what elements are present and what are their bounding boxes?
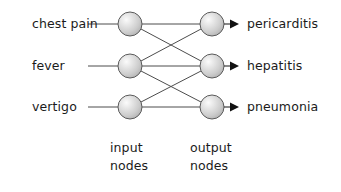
input-label-fever: fever	[32, 58, 66, 73]
output-arrows-group	[224, 20, 239, 112]
output-nodes-group	[200, 12, 224, 119]
input-label-vertigo: vertigo	[32, 99, 77, 114]
output-node-pneumonia[interactable]	[200, 95, 224, 119]
input-node-vertigo[interactable]	[118, 95, 142, 119]
input-caption-line1: input	[110, 140, 143, 155]
output-node-pericarditis[interactable]	[200, 12, 224, 36]
output-labels-group: pericarditis hepatitis pneumonia	[247, 16, 318, 114]
layer-captions-group: input nodes output nodes	[110, 140, 232, 173]
output-label-pneumonia: pneumonia	[247, 99, 318, 114]
output-node-hepatitis[interactable]	[200, 54, 224, 78]
input-node-fever[interactable]	[118, 54, 142, 78]
output-label-hepatitis: hepatitis	[247, 58, 302, 73]
arrow-head-pericarditis-icon	[230, 20, 239, 29]
output-caption-line1: output	[190, 140, 232, 155]
input-label-chest-pain: chest pain	[32, 16, 98, 31]
input-nodes-group	[118, 12, 142, 119]
input-node-chest-pain[interactable]	[118, 12, 142, 36]
neural-network-diagram: chest pain fever vertigo pericarditis he…	[0, 0, 341, 192]
arrow-head-hepatitis-icon	[230, 62, 239, 71]
output-caption-line2: nodes	[190, 158, 228, 173]
input-caption-line2: nodes	[110, 158, 148, 173]
connection-edges	[141, 24, 201, 107]
input-stub-lines	[88, 24, 118, 107]
diagram-canvas: chest pain fever vertigo pericarditis he…	[0, 0, 341, 192]
output-label-pericarditis: pericarditis	[247, 16, 318, 31]
input-labels-group: chest pain fever vertigo	[32, 16, 98, 114]
arrow-head-pneumonia-icon	[230, 103, 239, 112]
